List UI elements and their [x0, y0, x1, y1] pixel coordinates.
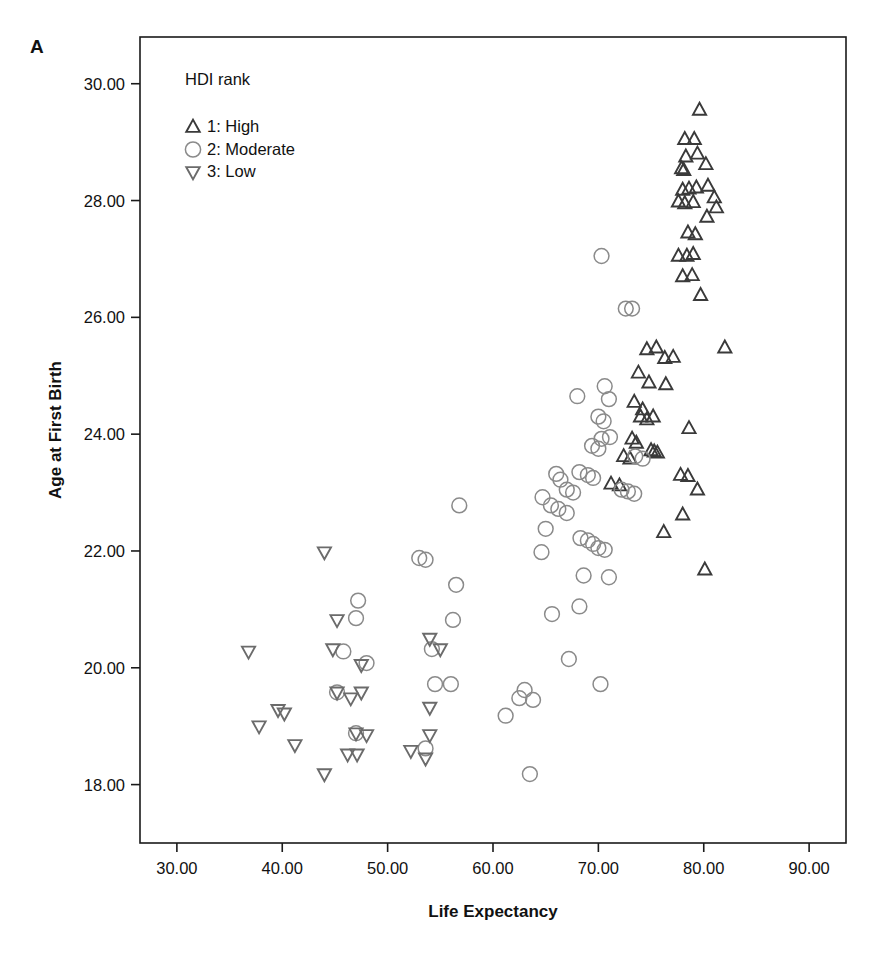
data-point — [288, 740, 301, 752]
data-point — [351, 593, 366, 608]
data-point — [630, 436, 643, 448]
data-point — [423, 703, 436, 715]
data-point — [625, 301, 640, 316]
data-point — [602, 570, 617, 585]
data-point — [657, 525, 670, 537]
series-triangle-up — [604, 103, 731, 575]
data-point — [572, 599, 587, 614]
data-point — [691, 482, 704, 494]
data-point — [538, 521, 553, 536]
data-point — [659, 377, 672, 389]
data-point — [718, 341, 731, 353]
data-point — [676, 508, 689, 520]
data-point — [688, 132, 701, 144]
data-point — [449, 577, 464, 592]
data-point — [570, 389, 585, 404]
data-point — [594, 249, 609, 264]
data-point — [561, 652, 576, 667]
data-point — [318, 769, 331, 781]
scatter-plot-canvas — [0, 0, 880, 957]
data-point — [452, 498, 467, 513]
data-point — [586, 471, 601, 486]
data-point — [682, 421, 695, 433]
data-point — [559, 506, 574, 521]
data-point — [701, 179, 714, 191]
data-point — [632, 366, 645, 378]
data-point — [446, 612, 461, 627]
data-point — [650, 341, 663, 353]
data-point — [344, 693, 357, 705]
legend-item-label: 3: Low — [207, 162, 256, 181]
data-point — [242, 647, 255, 659]
data-point — [428, 677, 443, 692]
data-point — [512, 691, 527, 706]
data-point — [526, 693, 541, 708]
figure-panel-a: A Age at First Birth Life Expectancy 18.… — [0, 0, 880, 957]
data-point — [252, 721, 265, 733]
data-point — [687, 195, 700, 207]
data-point — [694, 288, 707, 300]
data-point — [271, 705, 284, 717]
legend-symbol-triangle-down — [186, 167, 200, 179]
legend-title: HDI rank — [185, 70, 250, 89]
data-point — [593, 677, 608, 692]
data-point — [708, 190, 721, 202]
legend-item-label: 1: High — [207, 117, 259, 136]
data-point — [686, 268, 699, 280]
data-point — [443, 677, 458, 692]
data-point — [498, 708, 513, 723]
data-point — [618, 301, 633, 316]
data-point — [534, 545, 549, 560]
data-point — [628, 395, 641, 407]
series-circle — [330, 249, 650, 782]
data-point — [693, 103, 706, 115]
data-point — [603, 430, 618, 445]
data-point — [350, 749, 363, 761]
legend-symbol-triangle-up — [186, 120, 200, 132]
data-point — [681, 469, 694, 481]
data-point — [679, 150, 692, 162]
data-point — [349, 611, 364, 626]
legend-symbol-circle — [185, 142, 200, 157]
data-point — [667, 350, 680, 362]
data-point — [698, 562, 711, 574]
data-point — [360, 730, 373, 742]
data-point — [434, 644, 447, 656]
data-point — [691, 147, 704, 159]
data-point — [318, 547, 331, 559]
data-point — [545, 607, 560, 622]
data-point — [572, 465, 587, 480]
data-point — [517, 683, 532, 698]
data-point — [330, 615, 343, 627]
series-triangle-down — [242, 547, 447, 781]
legend-item-label: 2: Moderate — [207, 140, 295, 159]
data-point — [576, 568, 591, 583]
data-point — [535, 490, 550, 505]
data-point — [522, 767, 537, 782]
data-point — [404, 746, 417, 758]
legend-symbols — [185, 120, 200, 180]
data-point — [602, 392, 617, 407]
